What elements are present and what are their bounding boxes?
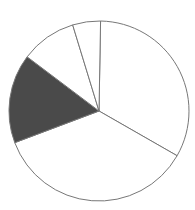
pie-chart [0, 0, 195, 210]
